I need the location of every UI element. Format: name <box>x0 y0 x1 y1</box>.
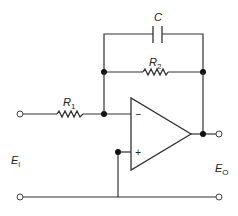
resistor-r2 <box>143 69 168 75</box>
output-ground-terminal <box>216 194 222 200</box>
input-ground-terminal <box>17 194 23 200</box>
resistor-r1 <box>57 111 83 117</box>
output-terminal <box>216 131 222 137</box>
noninverting-input-sign: + <box>135 147 141 158</box>
noninverting-node <box>115 149 121 155</box>
circuit-diagram: C R2 R1 − + <box>0 0 238 216</box>
output-branch <box>191 72 222 137</box>
output-node <box>200 131 206 137</box>
ground-branch <box>17 149 222 200</box>
r1-label: R1 <box>63 96 76 111</box>
output-voltage-label: EO <box>215 162 229 177</box>
opamp: − + <box>131 98 191 170</box>
summing-junction-node <box>101 111 107 117</box>
input-branch: R1 <box>17 72 131 117</box>
input-terminal <box>17 111 23 117</box>
r2-branch: R2 <box>101 56 206 75</box>
input-voltage-label: EI <box>11 154 20 168</box>
inverting-input-sign: − <box>135 109 141 120</box>
capacitor-label: C <box>154 11 162 23</box>
